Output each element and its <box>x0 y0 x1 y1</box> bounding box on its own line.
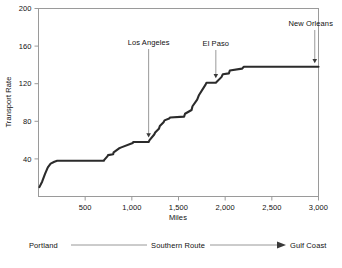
x-tick-label: 2,500 <box>262 203 281 212</box>
route-middle-label: Southern Route <box>151 241 205 250</box>
transport-rate-line <box>39 67 318 187</box>
y-tick-label: 160 <box>19 42 32 51</box>
y-axis-title: Transport Rate <box>4 76 13 127</box>
route-legend: Portland Southern Route Gulf Coast <box>29 241 327 250</box>
annotation-arrow-icon <box>214 74 219 78</box>
annotation-label: Los Angeles <box>128 38 170 47</box>
route-end-label: Gulf Coast <box>290 241 327 250</box>
transport-rate-chart: 4080120160200 5001,0001,5002,0002,5003,0… <box>0 0 342 268</box>
transport-rate-figure: 4080120160200 5001,0001,5002,0002,5003,0… <box>0 0 342 268</box>
x-axis-title: Miles <box>169 213 187 222</box>
annotation-el-paso: El Paso <box>203 39 230 78</box>
annotation-arrow-icon <box>312 59 317 63</box>
x-tick-label: 2,000 <box>216 203 235 212</box>
y-axis: 4080120160200 <box>19 4 39 163</box>
route-start-label: Portland <box>29 241 58 250</box>
annotation-label: El Paso <box>203 39 230 48</box>
annotation-label: New Orleans <box>289 19 334 28</box>
x-axis: 5001,0001,5002,0002,5003,000 <box>79 197 328 212</box>
x-tick-label: 3,000 <box>309 203 328 212</box>
plot-area-frame <box>39 9 319 197</box>
y-tick-label: 80 <box>23 117 32 126</box>
y-tick-label: 120 <box>19 79 32 88</box>
y-tick-label: 200 <box>19 4 32 13</box>
x-tick-label: 1,000 <box>122 203 141 212</box>
x-tick-label: 500 <box>79 203 92 212</box>
city-annotations: Los AngelesEl PasoNew Orleans <box>128 19 333 138</box>
annotation-new-orleans: New Orleans <box>289 19 334 63</box>
annotation-arrow-icon <box>146 133 151 137</box>
y-tick-label: 40 <box>23 155 32 164</box>
x-tick-label: 1,500 <box>169 203 188 212</box>
route-arrow-icon <box>277 242 286 249</box>
